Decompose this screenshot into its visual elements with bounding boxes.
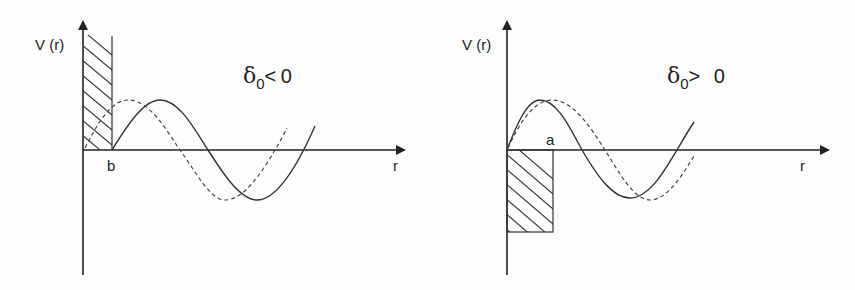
left-panel	[70, 20, 404, 275]
diagram-canvas	[0, 0, 855, 290]
left-y-axis-label: V (r)	[35, 36, 64, 53]
left-boundary-label-b: b	[107, 157, 115, 174]
right-y-axis-label: V (r)	[462, 36, 491, 53]
repulsive-wall-hatch	[70, 20, 130, 190]
phase-value: 0	[714, 65, 725, 87]
right-panel	[490, 22, 828, 290]
delta-symbol: δ	[243, 63, 256, 88]
delta-subscript: 0	[256, 75, 264, 92]
right-boundary-label-a: a	[546, 131, 554, 148]
delta-symbol: δ	[667, 63, 680, 88]
relation-symbol: >	[689, 65, 701, 87]
delta-subscript: 0	[680, 75, 688, 92]
right-solid-wave	[507, 100, 694, 198]
relation-symbol: <	[265, 65, 277, 87]
right-x-axis-label: r	[800, 157, 805, 174]
left-phase-shift-label: δ0< 0	[243, 63, 292, 92]
left-x-axis-label: r	[393, 157, 398, 174]
right-phase-shift-label: δ0> 0	[667, 63, 725, 92]
phase-value: 0	[281, 65, 292, 87]
